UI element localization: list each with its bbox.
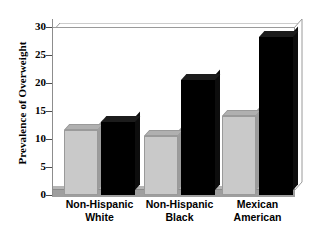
bar-side-face	[293, 27, 298, 190]
y-tick-label: 0	[6, 189, 46, 200]
y-axis-line	[52, 19, 53, 196]
y-tick-mark	[46, 27, 52, 28]
y-tick-mark	[46, 111, 52, 112]
bar-black-series-2	[259, 31, 293, 195]
y-tick-mark	[46, 55, 52, 56]
y-tick-mark	[46, 139, 52, 140]
y-tick-mark	[46, 195, 52, 196]
bar-front-face	[101, 122, 135, 195]
y-tick-mark	[46, 83, 52, 84]
bar-top-face	[144, 130, 183, 136]
bar-top-face	[259, 31, 298, 37]
bar-front-face	[222, 116, 256, 195]
y-tick-label: 30	[6, 21, 46, 32]
bar-black-series-0	[101, 116, 135, 195]
x-category-label-line: Mexican	[203, 198, 313, 211]
bar-front-face	[64, 130, 98, 195]
y-tick-mark	[46, 167, 52, 168]
y-tick-label: 15	[6, 105, 46, 116]
bar-top-face	[181, 74, 220, 80]
bar-light-gray-series-2	[222, 110, 256, 195]
y-tick-label: 25	[6, 49, 46, 60]
bar-light-gray-series-1	[144, 130, 178, 195]
chart-figure: Prevalence of Overweight 051015202530 No…	[0, 0, 313, 237]
y-tick-label: 5	[6, 161, 46, 172]
bar-top-face	[101, 116, 140, 122]
bar-top-face	[64, 124, 103, 130]
bar-front-face	[144, 136, 178, 195]
bar-side-face	[135, 112, 140, 190]
plot-area: 051015202530 Non-HispanicWhiteNon-Hispan…	[0, 0, 313, 237]
x-category-label-2: MexicanAmerican	[203, 198, 313, 224]
y-tick-label: 20	[6, 77, 46, 88]
bar-top-face	[222, 110, 261, 116]
bar-side-face	[215, 70, 220, 190]
bar-light-gray-series-0	[64, 124, 98, 195]
bar-front-face	[259, 37, 293, 195]
bar-black-series-1	[181, 74, 215, 195]
x-category-label-line: American	[203, 211, 313, 224]
bar-front-face	[181, 80, 215, 195]
y-tick-label: 10	[6, 133, 46, 144]
